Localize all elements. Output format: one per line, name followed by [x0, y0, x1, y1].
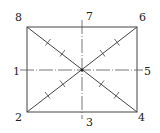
label-1: 1 [13, 65, 20, 78]
center-point [81, 69, 84, 72]
label-8: 8 [15, 11, 22, 24]
label-7: 7 [86, 10, 93, 23]
label-3: 3 [86, 116, 93, 129]
label-2: 2 [15, 111, 22, 124]
rectangle-symmetry-diagram: 1 2 3 4 5 6 7 8 [0, 0, 160, 133]
label-5: 5 [144, 65, 151, 78]
label-6: 6 [139, 11, 146, 24]
label-4: 4 [138, 111, 145, 124]
